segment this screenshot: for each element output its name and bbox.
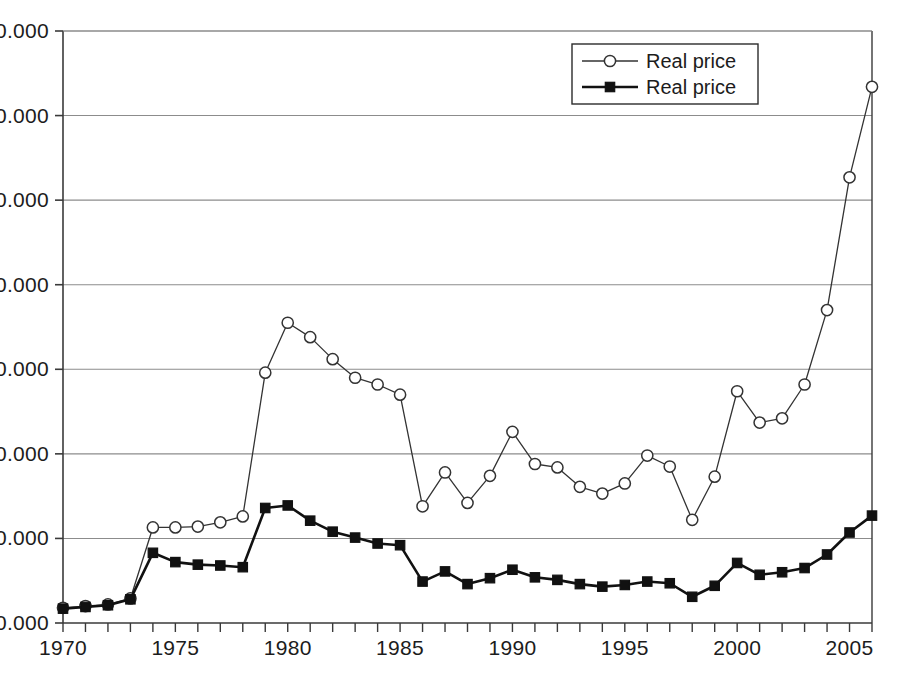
legend-label-1: Real price: [646, 76, 736, 98]
y-tick-label-0: 0.000: [0, 611, 49, 634]
marker-s1-1992: [553, 575, 562, 584]
marker-s0-2000: [732, 386, 743, 397]
marker-s1-1976: [193, 560, 202, 569]
x-tick-label-1980: 1980: [264, 636, 312, 659]
marker-s0-1982: [327, 354, 338, 365]
marker-s1-2000: [732, 558, 741, 567]
marker-s0-1997: [664, 461, 675, 472]
marker-s1-1978: [238, 562, 247, 571]
marker-s1-1998: [688, 592, 697, 601]
marker-s1-1994: [598, 582, 607, 591]
marker-s1-1999: [710, 581, 719, 590]
marker-s0-1983: [350, 372, 361, 383]
marker-s1-1972: [103, 601, 112, 610]
marker-s1-2005: [845, 528, 854, 537]
legend-label-0: Real price: [646, 50, 736, 72]
marker-s1-2001: [755, 570, 764, 579]
marker-s1-1984: [373, 539, 382, 548]
marker-s0-1981: [305, 332, 316, 343]
marker-s0-2003: [799, 379, 810, 390]
marker-s0-1975: [170, 522, 181, 533]
y-tick-label-20: 20.000: [0, 442, 49, 465]
marker-s1-1986: [418, 577, 427, 586]
marker-s0-1996: [642, 450, 653, 461]
y-tick-label-60: 60.000: [0, 104, 49, 127]
x-tick-label-1985: 1985: [376, 636, 424, 659]
marker-s0-2006: [866, 81, 877, 92]
marker-s0-1990: [507, 426, 518, 437]
marker-s1-2004: [822, 550, 831, 559]
marker-s0-1988: [462, 497, 473, 508]
y-tick-label-70: 70.000: [0, 19, 49, 42]
y-tick-label-40: 40.000: [0, 273, 49, 296]
legend-marker-1: [605, 82, 614, 91]
marker-s1-1993: [575, 579, 584, 588]
marker-s0-1976: [192, 521, 203, 532]
x-tick-label-1975: 1975: [151, 636, 199, 659]
marker-s1-1997: [665, 579, 674, 588]
marker-s1-1975: [171, 557, 180, 566]
marker-s1-1996: [643, 577, 652, 586]
figure-container: 0.00010.00020.00030.00040.00050.00060.00…: [0, 0, 897, 679]
marker-s1-1977: [216, 561, 225, 570]
legend-marker-0: [604, 55, 615, 66]
marker-s0-1985: [394, 389, 405, 400]
marker-s1-1980: [283, 501, 292, 510]
marker-s0-2005: [844, 172, 855, 183]
marker-s0-2004: [821, 304, 832, 315]
marker-s0-1993: [574, 481, 585, 492]
x-tick-label-2005: 2005: [826, 636, 874, 659]
marker-s1-2003: [800, 563, 809, 572]
y-tick-label-10: 10.000: [0, 526, 49, 549]
marker-s1-1981: [305, 516, 314, 525]
marker-s1-1985: [395, 540, 404, 549]
marker-s1-1971: [81, 602, 90, 611]
marker-s1-1987: [440, 567, 449, 576]
marker-s0-1977: [215, 517, 226, 528]
chart-legend: Real priceReal price: [572, 44, 758, 104]
marker-s1-1970: [58, 604, 67, 613]
marker-s0-1978: [237, 511, 248, 522]
marker-s1-1991: [530, 573, 539, 582]
marker-s0-2001: [754, 417, 765, 428]
marker-s0-1989: [484, 470, 495, 481]
marker-s1-1990: [508, 565, 517, 574]
y-tick-label-50: 50.000: [0, 188, 49, 211]
marker-s1-1983: [350, 533, 359, 542]
marker-s1-1979: [261, 503, 270, 512]
marker-s0-1999: [709, 471, 720, 482]
x-tick-label-1995: 1995: [601, 636, 649, 659]
marker-s1-1982: [328, 527, 337, 536]
marker-s0-1980: [282, 317, 293, 328]
marker-s1-1974: [148, 548, 157, 557]
marker-s0-1979: [260, 367, 271, 378]
marker-s0-1991: [529, 458, 540, 469]
marker-s1-1988: [463, 579, 472, 588]
line-chart: 0.00010.00020.00030.00040.00050.00060.00…: [0, 0, 897, 679]
marker-s0-1986: [417, 501, 428, 512]
x-tick-label-1990: 1990: [488, 636, 536, 659]
marker-s0-1994: [597, 488, 608, 499]
marker-s1-1989: [485, 573, 494, 582]
x-tick-label-2000: 2000: [713, 636, 761, 659]
marker-s0-1998: [687, 514, 698, 525]
y-tick-label-30: 30.000: [0, 357, 49, 380]
marker-s0-1974: [147, 522, 158, 533]
marker-s0-1984: [372, 379, 383, 390]
marker-s0-1987: [439, 467, 450, 478]
x-tick-label-1970: 1970: [39, 636, 87, 659]
marker-s0-2002: [777, 413, 788, 424]
marker-s0-1995: [619, 478, 630, 489]
marker-s0-1992: [552, 462, 563, 473]
marker-s1-1995: [620, 580, 629, 589]
marker-s1-1973: [126, 595, 135, 604]
marker-s1-2002: [777, 568, 786, 577]
marker-s1-2006: [867, 511, 876, 520]
